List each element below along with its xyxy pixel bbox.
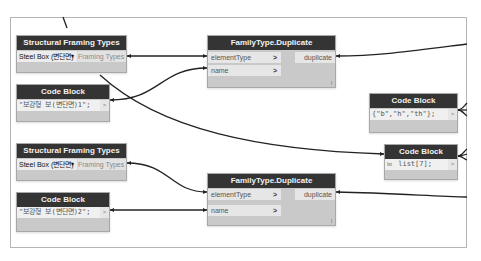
- code-editor[interactable]: "보강형 보(변단면)2";: [17, 207, 100, 218]
- chevron-down-icon: ▾: [71, 159, 74, 170]
- output-port-framing-types[interactable]: Framing Types: [78, 51, 126, 62]
- code-text: list[7];: [398, 160, 432, 168]
- chevron-right-icon: >: [273, 65, 277, 76]
- lacing-indicator: l: [331, 218, 332, 224]
- output-port[interactable]: >: [448, 159, 457, 170]
- node-title: Code Block: [370, 94, 457, 108]
- output-port-framing-types[interactable]: Framing Types: [78, 159, 126, 170]
- familytype-duplicate-node-2[interactable]: FamilyType.Duplicate elementType > name …: [207, 173, 336, 226]
- output-label: duplicate: [304, 191, 332, 198]
- output-label: Framing Types: [78, 161, 124, 168]
- input-label: name: [211, 207, 229, 214]
- node-title: Code Block: [385, 145, 457, 159]
- chevron-down-icon: ▾: [71, 51, 74, 62]
- node-title: Code Block: [17, 193, 109, 207]
- input-port-name[interactable]: name >: [208, 65, 281, 76]
- code-text: "보강형 보(변단면)2";: [19, 208, 91, 216]
- chevron-right-icon: >: [273, 189, 277, 200]
- node-title: Code Block: [17, 85, 109, 99]
- structural-framing-types-node-2[interactable]: Structural Framing Types Steel Box (변단면)…: [16, 143, 127, 181]
- input-label: elementType: [211, 191, 251, 198]
- output-port-glyph: >: [451, 111, 455, 117]
- input-port-elementtype[interactable]: elementType >: [208, 52, 281, 63]
- dropdown-value: Steel Box (변단면): [19, 161, 74, 168]
- output-port-duplicate[interactable]: duplicate: [295, 189, 335, 200]
- input-port-lst[interactable]: lst: [387, 161, 392, 167]
- code-block-node-list[interactable]: Code Block lst list[7]; >: [384, 144, 458, 180]
- output-label: duplicate: [304, 54, 332, 61]
- output-port-glyph: >: [103, 102, 107, 108]
- familytype-duplicate-node-1[interactable]: FamilyType.Duplicate elementType > name …: [207, 35, 336, 88]
- lacing-indicator: l: [331, 80, 332, 86]
- code-editor[interactable]: "보강형 보(변단면)1";: [17, 100, 100, 111]
- output-label: Framing Types: [78, 53, 124, 60]
- output-port-duplicate[interactable]: duplicate: [295, 52, 335, 63]
- output-port[interactable]: >: [448, 109, 457, 120]
- chevron-right-icon: >: [273, 52, 277, 63]
- node-title: FamilyType.Duplicate: [208, 36, 335, 50]
- output-port[interactable]: >: [100, 207, 109, 218]
- code-text: "보강형 보(변단면)1";: [19, 101, 91, 109]
- chevron-right-icon: >: [273, 205, 277, 216]
- code-text: {"b","h","th"};: [372, 110, 435, 118]
- input-label: name: [211, 67, 229, 74]
- node-title: Structural Framing Types: [17, 36, 126, 50]
- code-editor[interactable]: {"b","h","th"};: [370, 109, 448, 120]
- output-port[interactable]: >: [100, 100, 109, 111]
- framing-type-dropdown[interactable]: Steel Box (변단면) ▾: [17, 159, 78, 170]
- node-title: FamilyType.Duplicate: [208, 174, 335, 188]
- node-title: Structural Framing Types: [17, 144, 126, 158]
- input-port-elementtype[interactable]: elementType >: [208, 189, 281, 200]
- code-editor[interactable]: lst list[7];: [385, 159, 448, 170]
- input-label: elementType: [211, 54, 251, 61]
- structural-framing-types-node-1[interactable]: Structural Framing Types Steel Box (변단면)…: [16, 35, 127, 73]
- dropdown-value: Steel Box (변단면): [19, 53, 74, 60]
- code-block-node-1[interactable]: Code Block "보강형 보(변단면)1"; >: [16, 84, 110, 122]
- code-block-node-bht[interactable]: Code Block {"b","h","th"}; >: [369, 93, 458, 133]
- output-port-glyph: >: [103, 209, 107, 215]
- input-port-name[interactable]: name >: [208, 205, 281, 216]
- framing-type-dropdown[interactable]: Steel Box (변단면) ▾: [17, 51, 78, 62]
- output-port-glyph: >: [451, 161, 455, 167]
- code-block-node-2[interactable]: Code Block "보강형 보(변단면)2"; >: [16, 192, 110, 232]
